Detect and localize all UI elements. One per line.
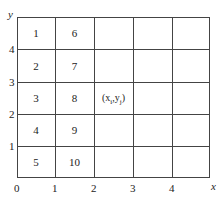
cell-label-3: 3 xyxy=(17,92,55,104)
x-tick-3: 3 xyxy=(130,182,136,194)
y-axis-label: y xyxy=(8,8,13,20)
y-tick-2: 2 xyxy=(9,108,15,120)
cell-label-5: 5 xyxy=(17,156,55,168)
origin-label: 0 xyxy=(14,182,20,194)
cell-label-7: 7 xyxy=(55,60,94,72)
coord-mid: ,y xyxy=(112,92,120,103)
grid-line-horizontal xyxy=(18,146,209,147)
grid-line-horizontal xyxy=(18,82,209,83)
y-tick-3: 3 xyxy=(9,76,15,88)
x-axis-label: x xyxy=(211,180,216,192)
grid-line-horizontal xyxy=(18,49,209,50)
cell-label-6: 6 xyxy=(55,27,94,39)
grid-line-vertical xyxy=(172,18,173,177)
x-tick-2: 2 xyxy=(91,182,97,194)
coord-close: ) xyxy=(122,92,125,103)
x-tick-4: 4 xyxy=(169,182,175,194)
cell-label-8: 8 xyxy=(55,92,94,104)
cell-label-4: 4 xyxy=(17,124,55,136)
grid-line-horizontal xyxy=(18,114,209,115)
cell-label-xi-yj: (xi,yj) xyxy=(94,92,133,108)
y-tick-4: 4 xyxy=(9,43,15,55)
x-tick-1: 1 xyxy=(52,182,58,194)
cell-label-10: 10 xyxy=(55,156,94,168)
cell-label-1: 1 xyxy=(17,27,55,39)
cell-label-2: 2 xyxy=(17,60,55,72)
cell-label-9: 9 xyxy=(55,124,94,136)
y-tick-1: 1 xyxy=(9,140,15,152)
grid-line-vertical xyxy=(133,18,134,177)
